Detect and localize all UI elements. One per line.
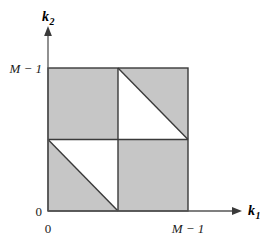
y-axis-label: k2 bbox=[42, 9, 55, 27]
x-axis-max-label: M − 1 bbox=[171, 221, 205, 236]
y-axis-origin-label: 0 bbox=[36, 204, 43, 219]
y-axis-label-base: k bbox=[42, 9, 49, 24]
up-arrow-icon bbox=[44, 26, 52, 36]
region-lower-right-quadrant bbox=[118, 140, 188, 212]
frequency-plane-diagram: M − 1 0 0 M − 1 k2 k1 bbox=[0, 0, 266, 242]
x-axis-label-subscript: 1 bbox=[256, 210, 261, 221]
right-arrow-icon bbox=[232, 207, 242, 215]
y-axis-max-label: M − 1 bbox=[8, 61, 42, 76]
x-axis-origin-label: 0 bbox=[45, 221, 52, 236]
region-upper-left-quadrant bbox=[48, 68, 118, 140]
y-axis-label-subscript: 2 bbox=[49, 16, 55, 27]
x-axis-label-base: k bbox=[248, 203, 255, 218]
x-axis-label: k1 bbox=[248, 203, 261, 221]
figure-container: M − 1 0 0 M − 1 k2 k1 bbox=[0, 0, 266, 242]
